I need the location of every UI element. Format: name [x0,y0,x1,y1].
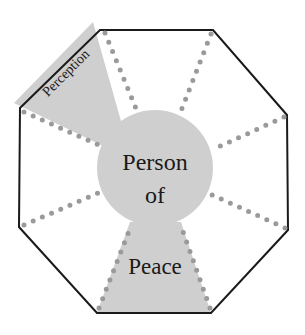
spoke-left-bottom [24,191,103,225]
spoke-right-bottom [210,194,285,228]
spoke-right-top [214,117,284,149]
bottom-label-peace: Peace [128,254,182,279]
person-of-peace-diagram: Person of Peace Perception [0,0,305,335]
spoke-top-right [181,34,211,111]
center-label-person: Person [122,149,187,175]
center-label-of: of [145,182,165,208]
